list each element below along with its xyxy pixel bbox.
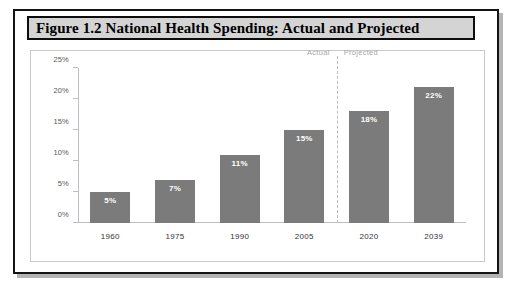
bar[interactable]: 18% xyxy=(349,111,389,223)
bar-slot: 18%2020 xyxy=(349,68,389,223)
annotation-actual: Actual xyxy=(307,48,330,57)
y-axis-tick-label: 10% xyxy=(53,148,69,157)
bar[interactable]: 15% xyxy=(284,130,324,223)
y-axis-tick-label: 20% xyxy=(53,86,69,95)
bar[interactable]: 7% xyxy=(155,180,195,223)
x-axis-tick-label: 1960 xyxy=(101,232,120,241)
bar-value-label: 11% xyxy=(232,159,248,223)
chart-axes: 0%5%10%15%20%25% 5%19607%197511%199015%2… xyxy=(78,68,466,223)
x-axis-tick-label: 1990 xyxy=(230,232,249,241)
bar-slot: 22%2039 xyxy=(414,68,454,223)
x-axis-tick-label: 2005 xyxy=(295,232,314,241)
y-axis-tick xyxy=(73,98,78,99)
y-axis-tick xyxy=(73,67,78,68)
y-axis-line xyxy=(78,68,79,223)
y-axis-tick xyxy=(73,160,78,161)
annotation-projected: Projected xyxy=(344,48,378,57)
y-axis-tick-label: 15% xyxy=(53,117,69,126)
x-axis-tick-label: 1975 xyxy=(165,232,184,241)
bar-slot: 11%1990 xyxy=(220,68,260,223)
bar[interactable]: 11% xyxy=(220,155,260,223)
y-axis-tick-label: 0% xyxy=(58,210,69,219)
bar-value-label: 7% xyxy=(169,184,181,223)
bar-slot: 7%1975 xyxy=(155,68,195,223)
y-axis-tick xyxy=(73,129,78,130)
page-title: Figure 1.2 National Health Spending: Act… xyxy=(29,20,420,37)
bar-slot: 15%2005 xyxy=(284,68,324,223)
y-axis-tick xyxy=(73,191,78,192)
actual-projected-divider xyxy=(337,56,338,223)
bar-slot: 5%1960 xyxy=(90,68,130,223)
bar-value-label: 22% xyxy=(425,91,442,223)
bar[interactable]: 5% xyxy=(90,192,130,223)
y-axis-tick-label: 5% xyxy=(58,179,69,188)
x-axis-tick-label: 2039 xyxy=(424,232,443,241)
bar[interactable]: 22% xyxy=(414,87,454,223)
figure-frame: Figure 1.2 National Health Spending: Act… xyxy=(13,9,499,274)
bar-value-label: 18% xyxy=(361,115,378,223)
chart-plot-area: 0%5%10%15%20%25% 5%19607%197511%199015%2… xyxy=(30,50,485,262)
y-axis-tick-label: 25% xyxy=(53,55,69,64)
bar-value-label: 15% xyxy=(296,134,313,223)
x-axis-line xyxy=(78,222,466,223)
bar-value-label: 5% xyxy=(104,196,116,223)
figure-title-band: Figure 1.2 National Health Spending: Act… xyxy=(27,16,475,40)
x-axis-tick-label: 2020 xyxy=(359,232,378,241)
y-axis-tick xyxy=(73,222,78,223)
